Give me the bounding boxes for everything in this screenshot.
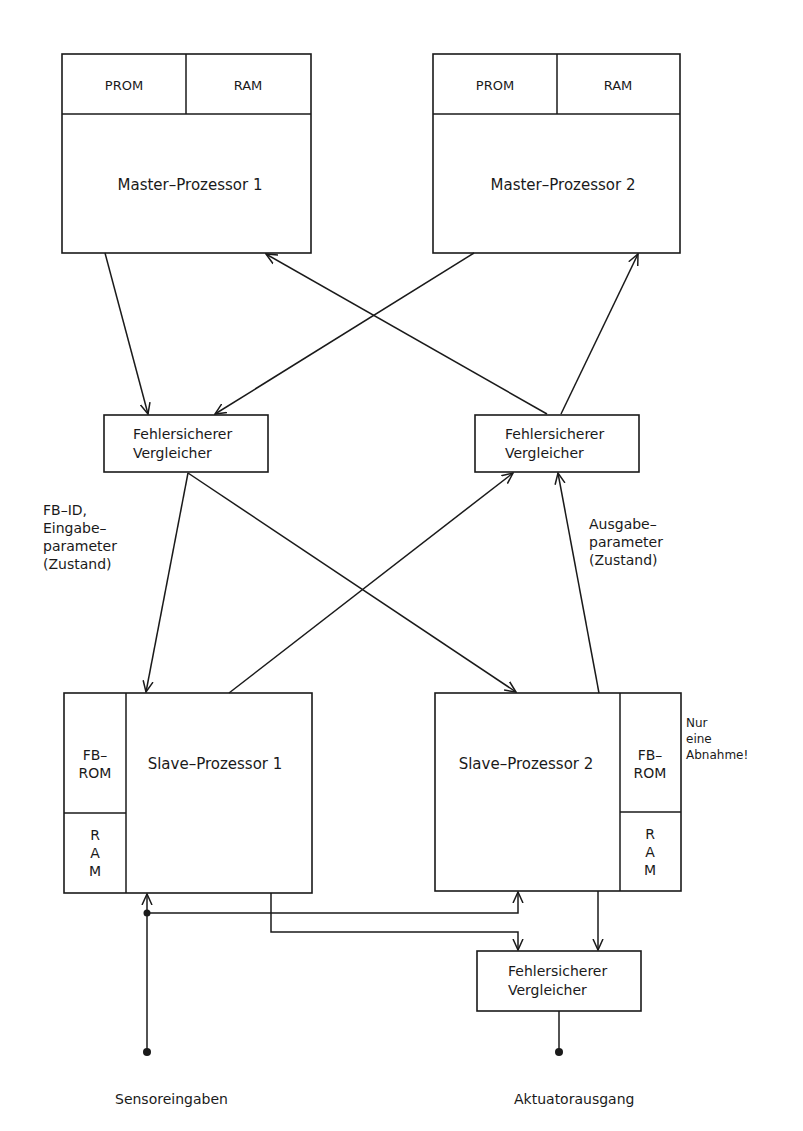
master2-ram-label: RAM — [604, 78, 633, 93]
sensor-terminal-dot — [143, 1048, 151, 1056]
comparator-right-line1: Fehlersicherer — [505, 426, 604, 442]
slave2-fbrom-line1: FB– — [638, 747, 663, 763]
comparator-left-line1: Fehlersicherer — [133, 426, 232, 442]
slave1-fbrom-line1: FB– — [83, 747, 108, 763]
annotation-note-line1: Nur — [686, 716, 708, 730]
comparator-left: Fehlersicherer Vergleicher — [104, 415, 268, 472]
master1-ram-label: RAM — [234, 78, 263, 93]
comparator-left-line2: Vergleicher — [133, 445, 212, 461]
arrow-master2-to-comparator-left — [215, 253, 474, 414]
comparator-bottom: Fehlersicherer Vergleicher — [477, 951, 641, 1011]
sensor-inputs-label: Sensoreingaben — [115, 1091, 228, 1107]
slave-processor-2: FB– ROM R A M Slave–Prozessor 2 — [435, 693, 681, 891]
slave1-ram-r: R — [90, 827, 100, 843]
annotation-input-line4: (Zustand) — [43, 556, 112, 572]
slave2-ram-a: A — [645, 844, 655, 860]
safety-architecture-diagram: PROM RAM Master–Prozessor 1 PROM RAM Mas… — [0, 0, 803, 1131]
annotation-output-parameters: Ausgabe– parameter (Zustand) — [589, 516, 663, 568]
slave1-ram-m: M — [89, 863, 101, 879]
master-processor-2: PROM RAM Master–Prozessor 2 — [433, 54, 680, 253]
comparator-right-line2: Vergleicher — [505, 445, 584, 461]
master1-title: Master–Prozessor 1 — [118, 176, 263, 194]
annotation-output-line1: Ausgabe– — [589, 516, 657, 532]
master-processor-1: PROM RAM Master–Prozessor 1 — [62, 54, 311, 253]
annotation-note: Nur eine Abnahme! — [686, 716, 748, 762]
master2-title: Master–Prozessor 2 — [491, 176, 636, 194]
annotation-output-line2: parameter — [589, 534, 663, 550]
comparator-bottom-line1: Fehlersicherer — [508, 963, 607, 979]
slave1-title: Slave–Prozessor 1 — [148, 755, 283, 773]
arrow-comparator-right-to-master2 — [561, 254, 638, 414]
annotation-input-line1: FB–ID, — [43, 502, 87, 518]
annotation-note-line2: eine — [686, 732, 712, 746]
annotation-input-parameters: FB–ID, Eingabe– parameter (Zustand) — [43, 502, 117, 572]
arrow-comparator-left-to-slave2 — [188, 473, 516, 692]
slave1-ram-a: A — [90, 845, 100, 861]
actuator-terminal-dot — [555, 1048, 563, 1056]
master2-prom-label: PROM — [476, 78, 514, 93]
annotation-note-line3: Abnahme! — [686, 748, 748, 762]
annotation-input-line2: Eingabe– — [43, 520, 107, 536]
slave2-ram-m: M — [644, 862, 656, 878]
arrow-comparator-right-to-master1 — [266, 254, 547, 414]
comparator-bottom-line2: Vergleicher — [508, 982, 587, 998]
annotation-input-line3: parameter — [43, 538, 117, 554]
arrow-comparator-left-to-slave1 — [146, 473, 188, 692]
comparator-right: Fehlersicherer Vergleicher — [475, 415, 639, 472]
slave-processor-1: FB– ROM R A M Slave–Prozessor 1 — [64, 693, 312, 893]
arrow-slave2-to-comparator-right — [558, 473, 599, 693]
slave1-fbrom-line2: ROM — [79, 765, 112, 781]
slave2-fbrom-line2: ROM — [634, 765, 667, 781]
actuator-output-label: Aktuatorausgang — [514, 1091, 634, 1107]
annotation-output-line3: (Zustand) — [589, 552, 658, 568]
master1-prom-label: PROM — [105, 78, 143, 93]
slave1-to-comparator-bottom-line — [271, 893, 518, 950]
sensor-to-slave2-line — [147, 892, 518, 913]
slave2-ram-r: R — [645, 826, 655, 842]
junction-dot — [144, 910, 151, 917]
arrow-master1-to-comparator-left — [105, 253, 148, 414]
arrow-slave1-to-comparator-right — [229, 473, 513, 693]
slave2-title: Slave–Prozessor 2 — [459, 755, 594, 773]
